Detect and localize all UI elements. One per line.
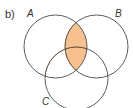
set-label-b: B: [115, 8, 122, 19]
set-label-a: A: [26, 8, 34, 19]
set-label-c: C: [42, 96, 50, 107]
part-label: b): [5, 8, 15, 20]
shaded-region-a-intersect-b: [45, 15, 128, 108]
venn-diagram: b) A B C: [0, 0, 133, 108]
